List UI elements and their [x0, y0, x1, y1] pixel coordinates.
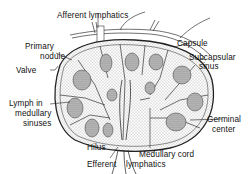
label-capsule: Capsule	[177, 39, 208, 48]
label-valve: Valve	[16, 66, 36, 75]
label-lymph-medullary-line2: medullary	[15, 109, 51, 118]
label-lymph-medullary-line3: sinuses	[23, 119, 51, 128]
label-medullary-cord: Medullary cord	[139, 150, 194, 159]
label-lymph-medullary-line1: Lymph in	[9, 99, 43, 108]
lymph-node-diagram: Afferent lymphatics Capsule Subcapsular …	[0, 0, 250, 174]
lymph-node-illustration	[0, 0, 250, 174]
label-germinal-center-line2: center	[212, 125, 235, 134]
label-hilus: Hilus	[87, 143, 106, 152]
label-germinal-center-line1: Germinal	[207, 115, 241, 124]
label-primary-nodule-line1: Primary	[25, 42, 54, 51]
label-subcapsular-sinus-line1: Subcapsular	[189, 53, 236, 62]
label-subcapsular-sinus-line2: sinus	[199, 62, 219, 71]
label-efferent-lymphatics-line1: Efferent	[87, 160, 116, 169]
label-primary-nodule-line2: nodule	[40, 52, 65, 61]
label-efferent-lymphatics-line2: lymphatics	[126, 160, 166, 169]
label-afferent-lymphatics: Afferent lymphatics	[57, 11, 128, 20]
